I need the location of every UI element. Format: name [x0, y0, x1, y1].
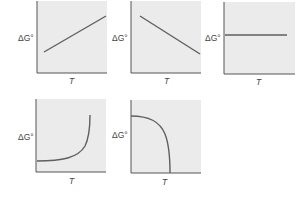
panel-2-xlabel: T	[164, 76, 170, 86]
panel-1-ylabel: ΔG°	[18, 33, 34, 43]
panel-3-xlabel: T	[256, 77, 262, 87]
panel-5-concave: ΔG° T	[112, 100, 201, 187]
panel-4-exponential: ΔG° T	[18, 99, 106, 186]
panel-2-decreasing: ΔG° T	[112, 1, 201, 86]
panel-1-background	[37, 1, 107, 73]
panel-4-ylabel: ΔG°	[18, 132, 34, 142]
panel-1-increasing: ΔG° T	[18, 1, 107, 86]
panel-5-ylabel: ΔG°	[112, 130, 128, 140]
panel-4-xlabel: T	[69, 176, 75, 186]
panel-1-xlabel: T	[69, 76, 75, 86]
panel-2-ylabel: ΔG°	[112, 33, 128, 43]
panel-5-xlabel: T	[162, 177, 168, 187]
panel-3-background	[224, 2, 295, 74]
panel-2-background	[131, 1, 201, 73]
panel-3-ylabel: ΔG°	[205, 33, 221, 43]
panel-3-constant: ΔG° T	[205, 2, 295, 87]
figure-canvas: ΔG° T ΔG° T ΔG° T ΔG° T ΔG° T	[0, 0, 304, 197]
